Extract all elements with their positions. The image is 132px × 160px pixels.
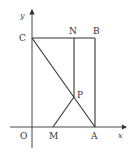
segment-pm	[53, 97, 74, 127]
origin-label: O	[20, 131, 27, 141]
y-axis-label: y	[19, 11, 25, 20]
point-b-label: B	[93, 26, 100, 36]
segment-ca	[32, 38, 95, 127]
point-a-label: A	[90, 131, 98, 141]
x-axis-label: x	[118, 131, 123, 140]
geometry-figure: y x O C N B P M A	[0, 0, 132, 160]
point-c-label: C	[19, 33, 26, 43]
point-n-label: N	[69, 26, 77, 36]
point-p-label: P	[77, 90, 83, 100]
point-m-label: M	[49, 131, 58, 141]
